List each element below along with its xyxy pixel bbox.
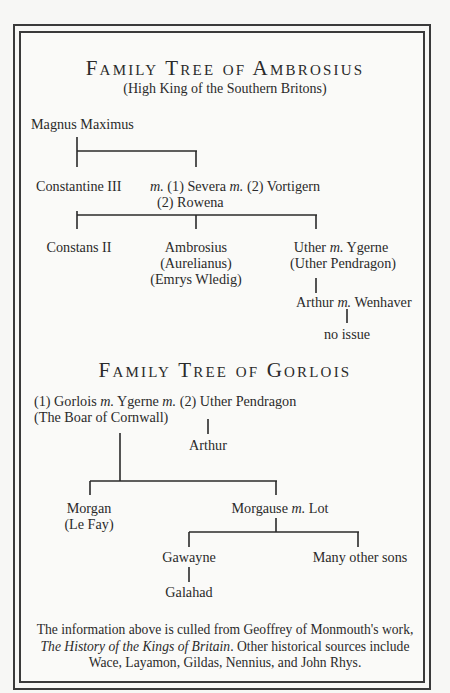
married-marker: m. xyxy=(230,178,244,194)
spouse-wenhaver: Wenhaver xyxy=(354,294,411,310)
married-marker: m. xyxy=(100,393,114,409)
note-line-2-rest: . Other historical sources include xyxy=(230,639,409,654)
person-uther: Uther m. Ygerne xyxy=(294,239,388,255)
no-issue-label: no issue xyxy=(324,326,370,342)
gorlois-marriages: (1) Gorlois m. Ygerne m. (2) Uther Pendr… xyxy=(34,393,296,409)
ambrosius-alias-emrys: (Emrys Wledig) xyxy=(150,271,242,287)
person-uther-pendragon: (2) Uther Pendragon xyxy=(180,393,297,409)
person-ygerne: Ygerne xyxy=(117,393,159,409)
note-line-1: The information above is culled from Geo… xyxy=(30,622,420,639)
person-morgan: Morgan xyxy=(67,500,112,516)
spouse-vortigern: (2) Vortigern xyxy=(247,178,320,194)
tree1-title: Family Tree of Ambrosius xyxy=(86,56,365,81)
uther-name: Uther xyxy=(294,239,326,255)
married-marker: m. xyxy=(150,178,164,194)
person-ambrosius: Ambrosius xyxy=(165,239,227,255)
spouse-lot: Lot xyxy=(309,500,329,516)
tree1-subtitle: (High King of the Southern Britons) xyxy=(123,81,326,97)
married-marker: m. xyxy=(162,393,176,409)
note-line-2: The History of the Kings of Britain. Oth… xyxy=(30,639,420,656)
constantine-marriages: m. (1) Severa m. (2) Vortigern xyxy=(150,178,320,194)
person-gawayne: Gawayne xyxy=(162,549,216,565)
gorlois-alias: (The Boar of Cornwall) xyxy=(34,409,168,425)
note-line-3: Wace, Layamon, Gildas, Nennius, and John… xyxy=(30,655,420,672)
ambrosius-alias-aurelianus: (Aurelianus) xyxy=(160,255,232,271)
arthur-name: Arthur xyxy=(296,294,334,310)
person-galahad: Galahad xyxy=(165,584,212,600)
person-constantine-iii: Constantine III xyxy=(36,178,122,194)
person-arthur: Arthur m. Wenhaver xyxy=(296,294,412,310)
married-marker: m. xyxy=(291,500,305,516)
source-note: The information above is culled from Geo… xyxy=(30,622,420,672)
person-magnus-maximus: Magnus Maximus xyxy=(31,116,134,132)
spouse-ygerne: Ygerne xyxy=(346,239,388,255)
morgan-alias: (Le Fay) xyxy=(64,516,113,532)
person-constans-ii: Constans II xyxy=(46,239,111,255)
spouse-rowena: (2) Rowena xyxy=(157,194,224,210)
tree-connectors xyxy=(0,0,450,693)
morgause-name: Morgause xyxy=(231,500,287,516)
book-title: The History of the Kings of Britain xyxy=(41,639,231,654)
many-other-sons: Many other sons xyxy=(313,549,408,565)
person-arthur-2: Arthur xyxy=(189,437,227,453)
tree2-title: Family Tree of Gorlois xyxy=(99,358,352,383)
person-gorlois: (1) Gorlois xyxy=(34,393,97,409)
spouse-severa: (1) Severa xyxy=(167,178,226,194)
married-marker: m. xyxy=(337,294,351,310)
person-morgause: Morgause m. Lot xyxy=(231,500,328,516)
uther-alias: (Uther Pendragon) xyxy=(290,255,396,271)
married-marker: m. xyxy=(330,239,344,255)
